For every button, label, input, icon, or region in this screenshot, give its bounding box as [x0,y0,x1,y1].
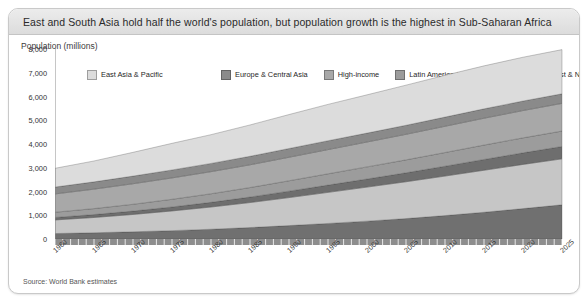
y-tick-label: 7,000 [13,68,47,77]
y-tick-label: 0 [13,235,47,244]
chart-card: East and South Asia hold half the world'… [8,8,580,294]
chart-title: East and South Asia hold half the world'… [23,16,552,28]
y-tick-label: 8,000 [13,45,47,54]
y-tick-label: 2,000 [13,187,47,196]
plot-area [55,43,570,265]
chart-header-bar: East and South Asia hold half the world'… [9,9,579,35]
source-note: Source: World Bank estimates [23,278,117,285]
area-chart [55,43,570,265]
y-tick-label: 3,000 [13,163,47,172]
y-tick-label: 6,000 [13,92,47,101]
y-tick-label: 4,000 [13,140,47,149]
y-tick-label: 1,000 [13,211,47,220]
y-tick-label: 5,000 [13,116,47,125]
chart-page: East and South Asia hold half the world'… [0,0,588,303]
